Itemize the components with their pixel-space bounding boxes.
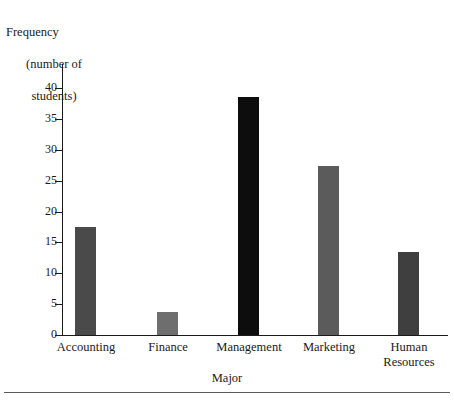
y-tick: 0 xyxy=(62,335,63,336)
bar-management xyxy=(238,97,259,335)
y-tick: 5 xyxy=(62,304,63,305)
x-axis-title: Major xyxy=(0,371,454,386)
y-tick: 20 xyxy=(62,212,63,213)
y-tick-label: 20 xyxy=(45,204,57,218)
y-tick-label: 0 xyxy=(51,327,57,341)
bar-finance xyxy=(157,312,178,335)
y-tick: 15 xyxy=(62,242,63,243)
x-axis-line xyxy=(62,335,448,336)
y-tick: 10 xyxy=(62,273,63,274)
plot-area: 0510152025303540 xyxy=(62,64,448,335)
bar-human-resources xyxy=(398,252,419,335)
y-axis-line xyxy=(62,64,63,335)
y-tick-label: 35 xyxy=(45,111,57,125)
y-tick-label: 15 xyxy=(45,234,57,248)
y-tick-label: 25 xyxy=(45,173,57,187)
y-tick-label: 5 xyxy=(51,296,57,310)
y-tick: 40 xyxy=(62,88,63,89)
y-tick-label: 10 xyxy=(45,265,57,279)
bar-marketing xyxy=(318,166,339,335)
y-tick: 35 xyxy=(62,119,63,120)
y-axis-title-line-1: Frequency xyxy=(6,25,59,39)
x-category-label: HumanResources xyxy=(354,340,454,370)
y-tick-label: 30 xyxy=(45,142,57,156)
y-tick: 30 xyxy=(62,150,63,151)
bottom-divider xyxy=(4,392,450,393)
y-tick-label: 40 xyxy=(45,80,57,94)
y-tick: 25 xyxy=(62,181,63,182)
bar-accounting xyxy=(75,227,96,335)
